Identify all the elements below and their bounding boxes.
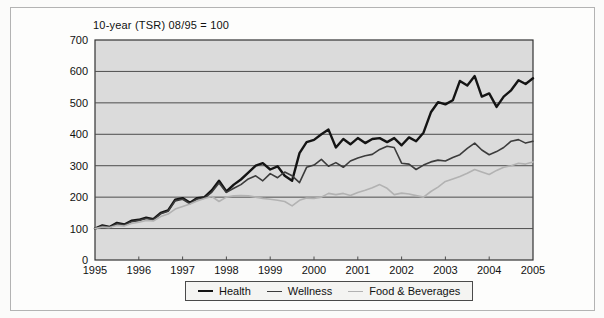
chart-legend: HealthWellnessFood & Beverages [185, 281, 473, 301]
legend-line-swatch [267, 291, 282, 292]
y-tick-label-200: 200 [56, 191, 88, 203]
plot-area [95, 40, 533, 260]
legend-label: Health [219, 285, 251, 297]
legend-label: Wellness [288, 285, 332, 297]
legend-item-food-beverages: Food & Beverages [348, 285, 460, 297]
y-tick-label-600: 600 [56, 65, 88, 77]
y-tick-label-100: 100 [56, 223, 88, 235]
y-tick-label-400: 400 [56, 128, 88, 140]
x-tick-label-1997: 1997 [161, 264, 205, 276]
x-tick-label-2003: 2003 [423, 264, 467, 276]
y-tick-label-700: 700 [56, 34, 88, 46]
x-tick-label-1998: 1998 [204, 264, 248, 276]
legend-line-swatch [198, 290, 213, 292]
legend-label: Food & Beverages [369, 285, 460, 297]
legend-item-health: Health [198, 285, 251, 297]
x-tick-label-1995: 1995 [73, 264, 117, 276]
x-tick-label-2005: 2005 [511, 264, 555, 276]
x-tick-label-2004: 2004 [467, 264, 511, 276]
y-tick-label-300: 300 [56, 160, 88, 172]
x-tick-label-1996: 1996 [117, 264, 161, 276]
legend-line-swatch [348, 291, 363, 292]
x-tick-label-2001: 2001 [336, 264, 380, 276]
x-tick-label-2002: 2002 [380, 264, 424, 276]
x-tick-label-1999: 1999 [248, 264, 292, 276]
y-tick-label-500: 500 [56, 97, 88, 109]
x-tick-label-2000: 2000 [292, 264, 336, 276]
legend-item-wellness: Wellness [267, 285, 332, 297]
